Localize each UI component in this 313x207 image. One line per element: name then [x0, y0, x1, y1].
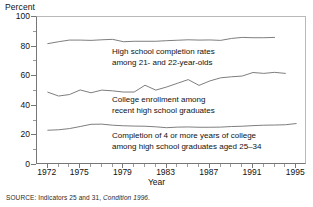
y-tick-mark-80 — [31, 46, 36, 47]
annotation-degree-completion: Completion of 4 or more years of college… — [112, 131, 261, 152]
plot-area: High school completion rates among 21- a… — [36, 16, 306, 164]
source-italic: Condition 1996 — [103, 194, 148, 201]
x-tick-label-1979: 1979 — [102, 167, 142, 177]
annotation-college-enrollment-line2: recent high school graduates — [112, 106, 215, 117]
y-minor-tick-70 — [33, 60, 36, 61]
y-minor-tick-90 — [33, 31, 36, 32]
series-line-1 — [48, 37, 275, 43]
x-tick-label-1995: 1995 — [275, 167, 313, 177]
x-tick-label-1987: 1987 — [189, 167, 229, 177]
x-tick-label-1991: 1991 — [232, 167, 272, 177]
annotation-degree-completion-line1: Completion of 4 or more years of college — [112, 131, 261, 142]
x-tick-label-1983: 1983 — [146, 167, 186, 177]
annotation-high-school-line2: among 21- and 22-year-olds — [112, 58, 215, 69]
y-tick-mark-20 — [31, 134, 36, 135]
x-axis-title: Year — [0, 177, 313, 187]
y-tick-mark-60 — [31, 75, 36, 76]
source-suffix: . — [148, 194, 150, 201]
source-prefix: SOURCE: — [6, 194, 36, 201]
series-line-3 — [48, 124, 296, 131]
chart-figure: Percent High school completion rates amo… — [0, 0, 313, 207]
annotation-high-school-line1: High school completion rates — [112, 47, 215, 58]
y-tick-mark-40 — [31, 105, 36, 106]
series-line-2 — [48, 72, 286, 96]
y-tick-label-40: 40 — [4, 100, 30, 110]
y-minor-tick-10 — [33, 149, 36, 150]
y-tick-label-100: 100 — [4, 11, 30, 21]
y-tick-label-60: 60 — [4, 70, 30, 80]
x-tick-label-1975: 1975 — [59, 167, 99, 177]
annotation-degree-completion-line2: among high school graduates aged 25–34 — [112, 142, 261, 153]
annotation-college-enrollment-line1: College enrollment among — [112, 95, 215, 106]
y-minor-tick-30 — [33, 120, 36, 121]
y-tick-label-20: 20 — [4, 129, 30, 139]
annotation-high-school: High school completion rates among 21- a… — [112, 47, 215, 68]
source-note: SOURCE: Indicators 25 and 31, Condition … — [6, 194, 150, 201]
y-minor-tick-50 — [33, 90, 36, 91]
y-tick-mark-100 — [31, 16, 36, 17]
annotation-college-enrollment: College enrollment among recent high sch… — [112, 95, 215, 116]
y-tick-mark-0 — [31, 164, 36, 165]
source-text: Indicators 25 and 31, — [38, 194, 101, 201]
y-tick-label-80: 80 — [4, 41, 30, 51]
